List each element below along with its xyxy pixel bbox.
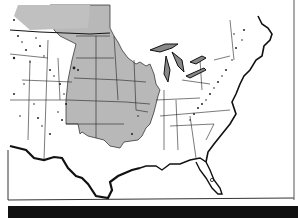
us-map xyxy=(0,0,298,218)
map-frame xyxy=(0,0,298,218)
atlantic-coast xyxy=(206,16,272,162)
great-lakes xyxy=(150,44,206,82)
mexico-border xyxy=(10,146,140,198)
bottom-band xyxy=(8,206,298,218)
lake-okeechobee xyxy=(210,178,213,181)
appalachian-stipple xyxy=(189,29,245,121)
